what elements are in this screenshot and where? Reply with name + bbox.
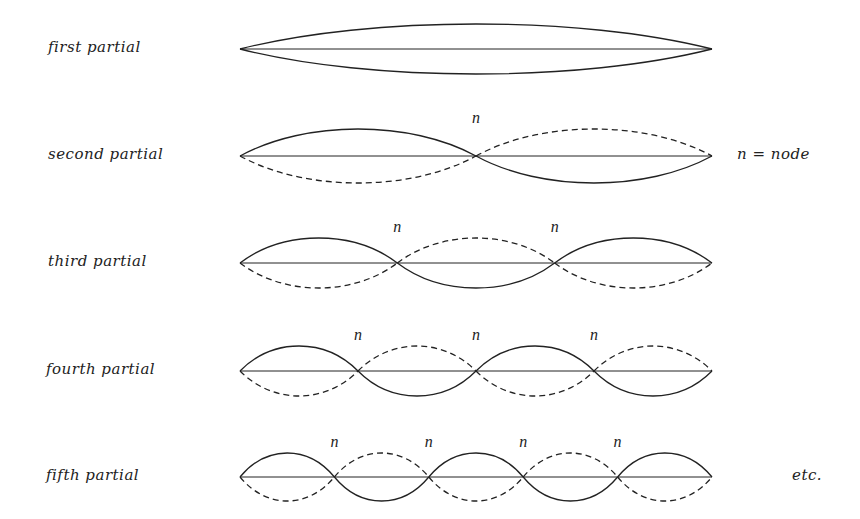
- dashed-arc: [358, 346, 476, 371]
- solid-arc: [476, 346, 594, 371]
- dashed-arc: [476, 371, 594, 396]
- node-label: n: [472, 109, 480, 127]
- solid-arc: [555, 238, 712, 263]
- node-label: n: [393, 218, 401, 236]
- waveform-row-2: [240, 129, 712, 183]
- node-label: n: [330, 433, 338, 451]
- solid-arc: [358, 371, 476, 396]
- dashed-arc: [240, 371, 358, 396]
- dashed-arc: [334, 453, 428, 477]
- solid-arc: [240, 453, 334, 477]
- dashed-arc: [476, 129, 712, 156]
- solid-arc: [240, 129, 476, 156]
- waveform-row-5: [240, 453, 712, 501]
- node-label: n: [472, 326, 480, 344]
- solid-arc: [397, 263, 554, 288]
- dashed-arc: [240, 477, 334, 501]
- node-label: n: [551, 218, 559, 236]
- node-label: n: [354, 326, 362, 344]
- solid-arc: [240, 24, 712, 49]
- partials-diagram: first partial second partial third parti…: [0, 0, 860, 519]
- solid-arc: [618, 453, 712, 477]
- solid-arc: [240, 49, 712, 74]
- solid-arc: [594, 371, 712, 396]
- waveform-row-3: [240, 238, 712, 288]
- dashed-arc: [594, 346, 712, 371]
- dashed-arc: [523, 453, 617, 477]
- dashed-arc: [240, 263, 397, 288]
- node-label: n: [519, 433, 527, 451]
- solid-arc: [334, 477, 428, 501]
- waveform-row-1: [240, 24, 712, 74]
- node-label: n: [425, 433, 433, 451]
- solid-arc: [476, 156, 712, 183]
- dashed-arc: [397, 238, 554, 263]
- solid-arc: [429, 453, 523, 477]
- solid-arc: [240, 346, 358, 371]
- solid-arc: [523, 477, 617, 501]
- dashed-arc: [429, 477, 523, 501]
- dashed-arc: [240, 156, 476, 183]
- waveform-row-4: [240, 346, 712, 396]
- dashed-arc: [555, 263, 712, 288]
- dashed-arc: [618, 477, 712, 501]
- node-label: n: [614, 433, 622, 451]
- solid-arc: [240, 238, 397, 263]
- node-label: n: [590, 326, 598, 344]
